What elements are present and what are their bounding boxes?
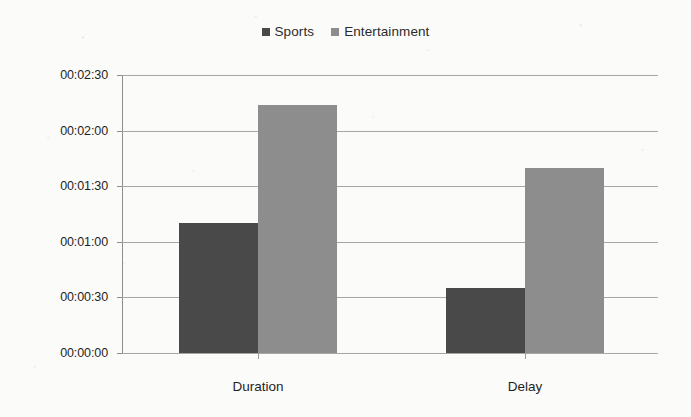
y-axis-tick-label: 00:01:00 xyxy=(0,235,108,249)
plot-area xyxy=(122,75,658,353)
y-axis-tick-label: 00:02:00 xyxy=(0,124,108,138)
legend-swatch-sports xyxy=(262,28,270,36)
y-axis-tick-mark xyxy=(117,242,122,243)
gridline xyxy=(122,75,658,76)
gridline xyxy=(122,353,658,354)
y-axis-tick-mark xyxy=(117,186,122,187)
x-axis-tick-mark xyxy=(525,353,526,359)
bar-sports-delay xyxy=(446,288,525,353)
y-axis-tick-label: 00:01:30 xyxy=(0,179,108,193)
y-axis-tick-mark xyxy=(117,297,122,298)
bar-entertainment-duration xyxy=(258,105,337,353)
y-axis-line xyxy=(122,75,123,353)
y-axis-tick-label: 00:00:00 xyxy=(0,346,108,360)
y-axis-tick-label: 00:02:30 xyxy=(0,68,108,82)
y-axis-tick-mark xyxy=(117,131,122,132)
legend-entry-sports: Sports xyxy=(262,24,315,39)
legend-entry-entertainment: Entertainment xyxy=(331,24,429,39)
gridline xyxy=(122,131,658,132)
legend-label-sports: Sports xyxy=(275,24,315,39)
chart-legend: Sports Entertainment xyxy=(0,24,691,39)
x-axis-tick-mark xyxy=(258,353,259,359)
bar-sports-duration xyxy=(179,223,258,353)
legend-swatch-entertainment xyxy=(331,28,339,36)
x-axis-tick-label: Delay xyxy=(508,379,543,394)
bar-entertainment-delay xyxy=(525,168,604,353)
y-axis-tick-label: 00:00:30 xyxy=(0,290,108,304)
y-axis-tick-mark xyxy=(117,75,122,76)
legend-label-entertainment: Entertainment xyxy=(344,24,429,39)
y-axis-tick-mark xyxy=(117,353,122,354)
x-axis-tick-label: Duration xyxy=(232,379,283,394)
